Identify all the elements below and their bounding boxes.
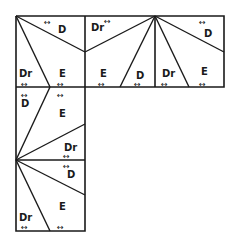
tile-top-right: Dr ↔ ↔ D E ↔ xyxy=(161,18,212,89)
double-arrow-icon: ↔ xyxy=(104,17,111,26)
label-d: D xyxy=(204,28,212,39)
tile-outlines xyxy=(16,16,224,231)
label-dr: Dr xyxy=(19,212,32,223)
tile-bottom-left: ↔ D E Dr ↔ ↔ xyxy=(19,162,75,232)
outer-border xyxy=(16,16,224,231)
double-arrow-icon: ↔ xyxy=(98,80,105,89)
label-d: D xyxy=(67,169,75,180)
triangle-lines xyxy=(16,16,224,231)
label-e: E xyxy=(100,68,107,79)
double-arrow-icon: ↔ xyxy=(199,80,206,89)
double-arrow-icon: ↔ xyxy=(134,80,141,89)
tiling-diagram: ↔ D Dr ↔ E ↔ Dr ↔ E ↔ D ↔ Dr ↔ ↔ D E ↔ ↔… xyxy=(0,0,236,238)
label-e: E xyxy=(59,201,66,212)
tile-top-left: ↔ D Dr ↔ E ↔ xyxy=(19,18,66,89)
double-arrow-icon: ↔ xyxy=(21,223,28,232)
label-dr: Dr xyxy=(19,68,32,79)
label-dr: Dr xyxy=(162,68,175,79)
label-dr: Dr xyxy=(91,22,104,33)
double-arrow-icon: ↔ xyxy=(44,18,51,27)
double-arrow-icon: ↔ xyxy=(57,223,64,232)
double-arrow-icon: ↔ xyxy=(199,18,206,27)
double-arrow-icon: ↔ xyxy=(57,80,64,89)
label-e: E xyxy=(59,108,66,119)
tile-middle-left: ↔ D ↔ E Dr ↔ xyxy=(21,91,77,161)
double-arrow-icon: ↔ xyxy=(21,80,28,89)
double-arrow-icon: ↔ xyxy=(57,91,64,100)
diagonal-line xyxy=(155,16,224,52)
double-arrow-icon: ↔ xyxy=(161,80,168,89)
double-arrow-icon: ↔ xyxy=(63,152,70,161)
label-d: D xyxy=(21,98,29,109)
label-e: E xyxy=(59,68,66,79)
label-d: D xyxy=(58,24,66,35)
label-e: E xyxy=(201,66,208,77)
